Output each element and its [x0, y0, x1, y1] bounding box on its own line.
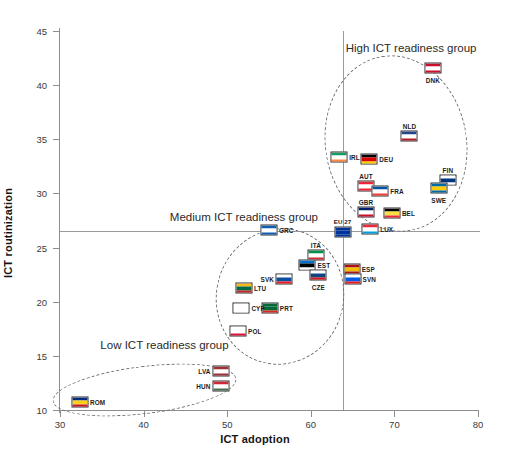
flag-marker-ltu [235, 282, 252, 293]
y-tick-label: 40 [36, 80, 52, 91]
flag-marker-lva [212, 366, 229, 377]
y-axis-title-text: ICT routinization [2, 188, 14, 278]
y-axis-title: ICT routinization [0, 0, 18, 466]
flag-marker-irl [331, 151, 348, 162]
y-axis-line [59, 28, 60, 413]
y-tick-label: 45 [36, 26, 52, 37]
data-point-label: POL [248, 327, 261, 334]
flag-marker-dnk [424, 62, 441, 73]
flag-marker-hun [212, 381, 229, 392]
y-tick [53, 31, 59, 32]
data-point-label: SVN [363, 275, 376, 282]
y-tick [53, 139, 59, 140]
data-point-label: GRC [279, 227, 294, 234]
data-point-label: ROM [90, 399, 105, 406]
data-point-label: LTU [254, 284, 266, 291]
data-point-label: NLD [403, 123, 416, 130]
flag-marker-gbr [357, 206, 374, 217]
y-tick [53, 193, 59, 194]
y-tick-label: 35 [36, 134, 52, 145]
x-tick [311, 411, 312, 417]
flag-marker-pol [230, 325, 247, 336]
y-tick [53, 302, 59, 303]
flag-marker-cyp [233, 303, 250, 314]
flag-marker-svk [276, 273, 293, 284]
data-point-label: LUX [380, 226, 393, 233]
data-point-label: HUN [196, 383, 210, 390]
data-point-label: FRA [390, 188, 403, 195]
data-point-label: AUT [359, 173, 372, 180]
flag-marker-grc [261, 225, 278, 236]
y-tick [53, 410, 59, 411]
data-point-label: LVA [198, 368, 210, 375]
x-tick-label: 80 [473, 419, 484, 430]
data-point-label: SVK [261, 275, 274, 282]
x-tick [144, 411, 145, 417]
y-tick-label: 25 [36, 242, 52, 253]
cluster-ellipse-medium [201, 215, 358, 379]
x-tick-label: 40 [138, 419, 149, 430]
x-tick-label: 70 [389, 419, 400, 430]
y-tick [53, 85, 59, 86]
y-tick [53, 248, 59, 249]
page-top-text-fragment [0, 0, 510, 12]
x-tick-label: 30 [55, 419, 66, 430]
data-point-label: BEL [402, 209, 415, 216]
chart-figure: 1015202530354045 304050607080 ICT adopti… [0, 0, 510, 466]
flag-marker-deu [361, 153, 378, 164]
x-tick [478, 411, 479, 417]
flag-marker-nld [401, 131, 418, 142]
data-point-label: DNK [426, 77, 440, 84]
flag-marker-swe [430, 183, 447, 194]
data-point-label: ESP [362, 266, 375, 273]
x-tick-label: 60 [306, 419, 317, 430]
y-tick [53, 356, 59, 357]
data-point-label: EST [317, 261, 330, 268]
y-tick-label: 15 [36, 350, 52, 361]
y-tick-label: 10 [36, 405, 52, 416]
data-point-label: ITA [311, 242, 321, 249]
cluster-caption-medium: Medium ICT readiness group [170, 211, 318, 223]
data-point-label: DEU [379, 155, 393, 162]
x-tick-label: 50 [222, 419, 233, 430]
data-point-label: EU 27 [334, 218, 352, 225]
y-tick-label: 30 [36, 188, 52, 199]
flag-marker-cze [310, 269, 327, 280]
y-tick-label: 20 [36, 296, 52, 307]
x-axis-tick-labels: 304050607080 [0, 419, 510, 433]
cluster-caption-low: Low ICT readiness group [100, 339, 228, 351]
data-point-label: PRT [280, 305, 293, 312]
flag-marker-rom [72, 397, 89, 408]
x-axis-title: ICT adoption [0, 433, 510, 445]
data-point-label: FIN [443, 167, 454, 174]
data-point-label: CYP [251, 305, 264, 312]
x-tick [60, 411, 61, 417]
x-axis-line [59, 410, 479, 411]
data-point-label: SWE [431, 197, 446, 204]
x-tick [394, 411, 395, 417]
flag-marker-lux [362, 224, 379, 235]
cluster-caption-high: High ICT readiness group [346, 42, 477, 54]
flag-marker-fra [372, 186, 389, 197]
data-point-label: IRL [349, 153, 360, 160]
flag-marker-bel [383, 207, 400, 218]
flag-marker-svn [344, 273, 361, 284]
flag-marker-eu27 [334, 227, 351, 238]
data-point-label: GBR [359, 199, 374, 206]
x-tick [227, 411, 228, 417]
data-point-label: CZE [312, 284, 325, 291]
